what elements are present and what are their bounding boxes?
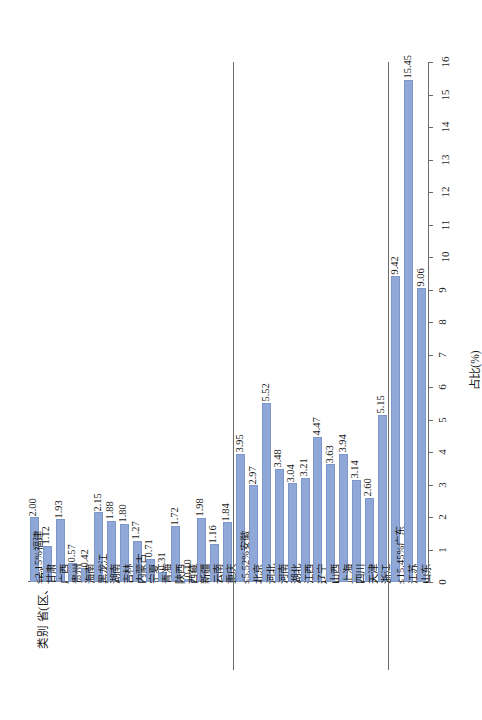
bar-column[interactable]: 2.15黑龙江 (92, 62, 105, 670)
bar-value-label: 9.42 (389, 256, 400, 274)
value-axis-tick (428, 95, 433, 96)
value-axis-tick-label: 16 (440, 57, 451, 68)
bar-value-label: 9.06 (415, 268, 426, 286)
bar-value-label: 1.98 (195, 498, 206, 516)
value-axis-title: 占比(%) (466, 350, 482, 389)
bar-column[interactable]: 0.71宁夏 (144, 62, 157, 670)
bar-column[interactable]: 1.98新疆 (195, 62, 208, 670)
bar-column[interactable]: 15.45江苏 (402, 62, 415, 670)
bar[interactable]: 1.72陕西 (171, 526, 180, 582)
bar[interactable]: 3.48河南 (275, 469, 284, 582)
bar-value-label: 3.48 (273, 450, 284, 468)
bar-column[interactable]: 2.00≤2.15%福建 (28, 62, 41, 670)
bar[interactable]: 2.15黑龙江 (94, 512, 103, 582)
bar-column[interactable]: 0.42海南 (79, 62, 92, 670)
value-axis-tick (428, 192, 433, 193)
bar-value-label: 1.84 (221, 503, 232, 521)
bar-column[interactable]: 0.57贵州 (67, 62, 80, 670)
value-axis-tick-label: 6 (437, 384, 448, 390)
bar[interactable]: 1.27内蒙古 (133, 541, 142, 582)
bar[interactable]: 2.97北京 (249, 485, 258, 582)
bar[interactable]: 0.71宁夏 (146, 559, 155, 582)
bar[interactable]: 0.31青海 (158, 572, 167, 582)
bar-column[interactable]: 1.16云南 (208, 62, 221, 670)
bar[interactable]: 9.42≤15.45%广东 (391, 276, 400, 582)
bar[interactable]: 5.15浙江 (378, 415, 387, 582)
bar-column[interactable]: 1.84重庆 (221, 62, 234, 670)
bar[interactable]: 1.16云南 (210, 544, 219, 582)
bar-column[interactable]: 3.48河南 (273, 62, 286, 670)
bar-value-label: 0.57 (66, 544, 77, 562)
bar-column[interactable]: 1.93广西 (54, 62, 67, 670)
bar-column[interactable]: 3.04湖北 (286, 62, 299, 670)
bar[interactable]: 0.42海南 (81, 568, 90, 582)
value-axis-tick-label: 5 (437, 417, 448, 423)
bar[interactable]: 1.12甘肃 (43, 546, 52, 582)
bar-value-label: 3.21 (299, 458, 310, 476)
value-axis-tick (428, 485, 433, 486)
bar[interactable]: 1.88湖南 (107, 521, 116, 582)
bar-value-label: 1.72 (169, 507, 180, 525)
bar-column[interactable]: 5.52河北 (260, 62, 273, 670)
bar-value-label: 3.14 (350, 461, 361, 479)
bar-column[interactable]: 3.63山西 (324, 62, 337, 670)
bar[interactable]: 1.84重庆 (223, 522, 232, 582)
bar-value-label: 1.93 (54, 500, 65, 518)
bar-column[interactable]: 3.14四川 (350, 62, 363, 670)
bar[interactable]: 3.14四川 (352, 480, 361, 582)
bar-column[interactable]: 1.72陕西 (169, 62, 182, 670)
bar-value-label: 3.95 (234, 434, 245, 452)
bar[interactable]: 15.45江苏 (404, 80, 413, 582)
bar-column[interactable]: 3.21江西 (299, 62, 312, 670)
bar-column[interactable]: 2.97北京 (247, 62, 260, 670)
bar-value-label: 1.12 (41, 526, 52, 544)
bar-column[interactable]: 1.27内蒙古 (131, 62, 144, 670)
bar[interactable]: 1.93广西 (56, 519, 65, 582)
value-axis-tick-label: 7 (437, 352, 448, 358)
bar[interactable]: 2.60天津 (365, 498, 374, 583)
bar-column[interactable]: 4.47辽宁 (311, 62, 324, 670)
value-axis: 占比(%) 012345678910111213141516 (428, 62, 472, 582)
bar[interactable]: 1.98新疆 (197, 518, 206, 582)
bar-group: 9.42≤15.45%广东15.45江苏9.06山东 (388, 62, 428, 670)
bar-value-label: 1.88 (105, 502, 116, 520)
value-axis-tick (428, 420, 433, 421)
plot-area: 2.00≤2.15%福建1.12甘肃1.93广西0.57贵州0.42海南2.15… (28, 62, 428, 670)
bar-column[interactable]: 0.31青海 (156, 62, 169, 670)
bar[interactable]: 2.00≤2.15%福建 (30, 517, 39, 582)
bar[interactable]: 4.47辽宁 (313, 437, 322, 582)
bar[interactable]: 0.57贵州 (68, 563, 77, 582)
value-axis-tick-label: 14 (440, 122, 451, 133)
bar[interactable]: 3.95≤5.52%安徽 (236, 454, 245, 582)
bar[interactable]: 3.94上海 (339, 454, 348, 582)
bar[interactable]: 9.06山东 (417, 288, 426, 582)
value-axis-tick-label: 9 (437, 287, 448, 293)
bar-value-label: 1.27 (131, 521, 142, 539)
bar[interactable]: 0.10西藏 (184, 579, 193, 582)
value-axis-tick (428, 62, 433, 63)
bar-column[interactable]: 9.42≤15.45%广东 (389, 62, 402, 670)
bar-value-label: 5.15 (376, 395, 387, 413)
value-axis-tick-label: 12 (440, 187, 451, 198)
bar-column[interactable]: 5.15浙江 (376, 62, 389, 670)
bar-value-label: 3.04 (286, 464, 297, 482)
value-axis-tick-label: 0 (437, 579, 448, 585)
bar-column[interactable]: 9.06山东 (415, 62, 428, 670)
bar-column[interactable]: 3.94上海 (337, 62, 350, 670)
bar[interactable]: 5.52河北 (262, 403, 271, 582)
bar[interactable]: 1.80吉林 (120, 524, 129, 583)
bar[interactable]: 3.04湖北 (288, 483, 297, 582)
bar-column[interactable]: 1.88湖南 (105, 62, 118, 670)
bar-column[interactable]: 1.12甘肃 (41, 62, 54, 670)
bar-groups: 2.00≤2.15%福建1.12甘肃1.93广西0.57贵州0.42海南2.15… (28, 62, 428, 670)
bar-column[interactable]: 0.10西藏 (182, 62, 195, 670)
bar-column[interactable]: 1.80吉林 (118, 62, 131, 670)
value-axis-tick (428, 322, 433, 323)
bar-value-label: 2.15 (92, 493, 103, 511)
bar[interactable]: 3.21江西 (301, 478, 310, 582)
bar[interactable]: 3.63山西 (326, 464, 335, 582)
bar-value-label: 4.47 (311, 417, 322, 435)
bar-column[interactable]: 2.60天津 (363, 62, 376, 670)
bar-column[interactable]: 3.95≤5.52%安徽 (234, 62, 247, 670)
